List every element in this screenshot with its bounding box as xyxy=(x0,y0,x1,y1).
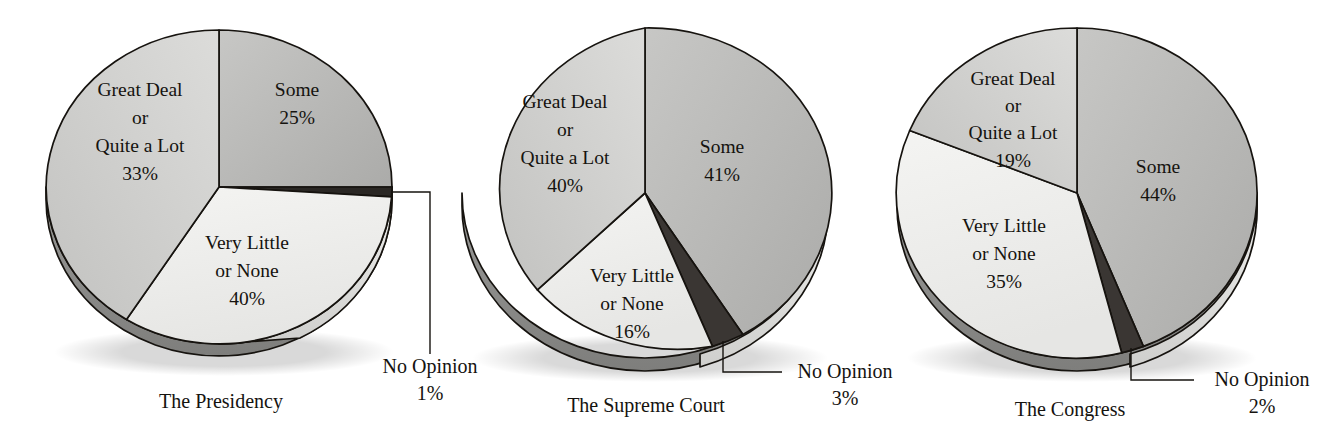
slice-some-value: 25% xyxy=(279,107,315,128)
slice-great-deal-value: 19% xyxy=(995,150,1031,171)
slice-great-deal-value: 40% xyxy=(547,175,583,196)
slice-great-deal-line2: or xyxy=(132,107,149,128)
slice-great-deal-value: 33% xyxy=(122,163,158,184)
label-no-opinion: No Opinion 3% xyxy=(798,360,893,409)
slice-great-deal-line3: Quite a Lot xyxy=(96,135,185,156)
no-opinion-name: No Opinion xyxy=(383,355,478,378)
pie-chart-congress: Some 44% Great Deal or Quite a Lot 19% V… xyxy=(896,28,1309,421)
slice-some-value: 44% xyxy=(1140,184,1176,205)
slice-great-deal-line1: Great Deal xyxy=(98,79,184,100)
figure-canvas: Some 25% Great Deal or Quite a Lot 33% V… xyxy=(0,0,1340,447)
slice-some-name: Some xyxy=(700,136,744,157)
slice-great-deal-line1: Great Deal xyxy=(971,68,1057,89)
slice-very-little-value: 35% xyxy=(986,271,1022,292)
chart-caption-congress: The Congress xyxy=(1015,398,1126,421)
slice-great-deal-line3: Quite a Lot xyxy=(969,122,1058,143)
no-opinion-leader-line xyxy=(393,192,430,354)
slice-very-little-line1: Very Little xyxy=(962,215,1046,236)
slice-some-value: 41% xyxy=(704,164,740,185)
slice-great-deal-line1: Great Deal xyxy=(523,91,609,112)
chart-caption-supreme-court: The Supreme Court xyxy=(567,394,725,417)
no-opinion-value: 2% xyxy=(1249,395,1276,417)
label-no-opinion: No Opinion 2% xyxy=(1215,368,1310,417)
slice-very-little-line2: or None xyxy=(600,293,663,314)
slice-very-little-line1: Very Little xyxy=(205,232,289,253)
slice-great-deal-line3: Quite a Lot xyxy=(521,147,610,168)
pie-charts-figure: Some 25% Great Deal or Quite a Lot 33% V… xyxy=(0,0,1340,447)
slice-great-deal-line2: or xyxy=(557,119,574,140)
slice-very-little-line1: Very Little xyxy=(590,265,674,286)
slice-very-little-value: 16% xyxy=(614,321,650,342)
chart-caption-presidency: The Presidency xyxy=(159,390,283,413)
label-no-opinion: No Opinion 1% xyxy=(383,355,478,404)
no-opinion-name: No Opinion xyxy=(1215,368,1310,391)
no-opinion-value: 3% xyxy=(832,387,859,409)
no-opinion-name: No Opinion xyxy=(798,360,893,383)
pie-chart-supreme-court: Some 41% Great Deal or Quite a Lot 40% V… xyxy=(462,28,893,417)
slice-very-little-value: 40% xyxy=(229,288,265,309)
slice-very-little-line2: or None xyxy=(972,243,1035,264)
slice-great-deal-line2: or xyxy=(1005,95,1022,116)
pie-chart-presidency: Some 25% Great Deal or Quite a Lot 33% V… xyxy=(46,30,478,413)
slice-very-little-line2: or None xyxy=(215,260,278,281)
no-opinion-value: 1% xyxy=(417,382,444,404)
slice-some-name: Some xyxy=(1136,156,1180,177)
slice-some-name: Some xyxy=(275,79,319,100)
